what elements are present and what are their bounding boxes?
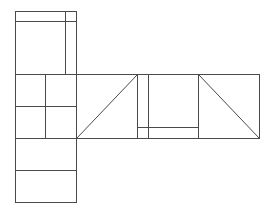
face-bottom: [16, 139, 77, 203]
face-right-3: [199, 75, 260, 139]
face-right-3-diagonal: [199, 75, 260, 139]
face-right-2-outline: [138, 75, 199, 139]
face-left-middle: [16, 75, 77, 139]
face-right-1: [77, 75, 138, 139]
face-right-2: [138, 75, 199, 139]
face-top-outline: [16, 12, 77, 75]
cube-net-diagram: [0, 0, 272, 212]
face-right-1-diagonal: [77, 75, 138, 139]
face-top: [16, 12, 77, 75]
